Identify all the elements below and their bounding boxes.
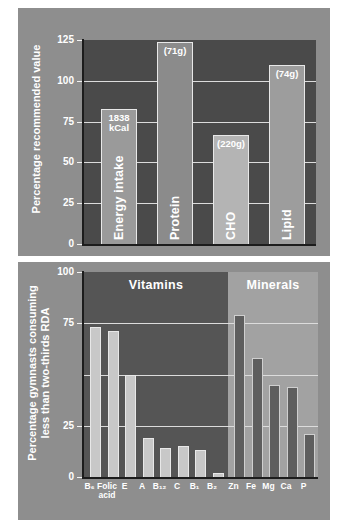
region-label-vitamins: Vitamins bbox=[84, 278, 228, 292]
bar-protein[interactable]: (71g) Protein bbox=[157, 42, 193, 244]
top-ticklabel-75: 75 bbox=[40, 117, 74, 127]
top-ticklabel-125: 125 bbox=[40, 35, 74, 45]
bar-category-energy-intake: Energy intake bbox=[112, 155, 126, 240]
bar-energy-intake[interactable]: 1838 kCal Energy intake bbox=[101, 109, 137, 244]
bar-a[interactable] bbox=[143, 438, 154, 477]
bar-c[interactable] bbox=[178, 446, 189, 477]
bottom-ticklabel-0: 0 bbox=[40, 472, 74, 482]
bar-label-energy-intake: 1838 kCal bbox=[102, 113, 136, 133]
bar-label-protein: (71g) bbox=[158, 46, 192, 56]
bottom-tick-0 bbox=[77, 477, 82, 478]
bottom-chart-panel: Percentage gymnasts consuming less than … bbox=[18, 262, 330, 520]
bottom-tick-75 bbox=[77, 323, 82, 324]
bottom-gridline-50 bbox=[84, 375, 318, 376]
figure-root: Percentage recommended value 1838 kCal E… bbox=[0, 0, 338, 530]
bar-category-protein: Protein bbox=[168, 196, 182, 240]
top-ticklabel-0: 0 bbox=[40, 239, 74, 249]
bar-b1[interactable] bbox=[195, 450, 206, 477]
bar-category-lipid: Lipid bbox=[280, 209, 294, 240]
top-tick-100 bbox=[77, 81, 82, 82]
top-tick-25 bbox=[77, 203, 82, 204]
bottom-gridline-75 bbox=[84, 323, 318, 324]
bar-p[interactable] bbox=[304, 434, 315, 477]
bottom-chart-y-axis-label: Percentage gymnasts consuming less than … bbox=[26, 268, 52, 478]
bar-e[interactable] bbox=[125, 375, 136, 478]
top-chart-x-axis bbox=[82, 244, 316, 246]
bar-b6[interactable] bbox=[90, 327, 101, 477]
bottom-chart-plot-area: Vitamins Minerals bbox=[84, 272, 318, 477]
bar-folic-acid[interactable] bbox=[108, 331, 119, 477]
bottom-ticklabel-100: 100 bbox=[40, 267, 74, 277]
bar-label-lipid: (74g) bbox=[270, 69, 304, 79]
xtick-b2: B₂ bbox=[201, 482, 224, 491]
bar-zn[interactable] bbox=[234, 315, 245, 477]
bottom-ticklabel-25: 25 bbox=[40, 421, 74, 431]
bottom-gridline-25 bbox=[84, 426, 318, 427]
top-chart-plot-area: 1838 kCal Energy intake (71g) Protein (2… bbox=[84, 40, 316, 244]
region-label-minerals: Minerals bbox=[228, 278, 318, 292]
top-ticklabel-100: 100 bbox=[40, 76, 74, 86]
top-chart-y-axis bbox=[82, 39, 84, 246]
bottom-chart-y-axis bbox=[82, 271, 84, 479]
bar-ca[interactable] bbox=[287, 387, 298, 477]
top-ticklabel-25: 25 bbox=[40, 198, 74, 208]
bar-category-cho: CHO bbox=[224, 212, 238, 240]
xtick-p: P bbox=[292, 482, 315, 491]
bar-lipid[interactable]: (74g) Lipid bbox=[269, 65, 305, 245]
top-ticklabel-50: 50 bbox=[40, 157, 74, 167]
bottom-tick-25 bbox=[77, 426, 82, 427]
bar-label-cho: (220g) bbox=[214, 139, 248, 149]
top-tick-75 bbox=[77, 122, 82, 123]
bar-cho[interactable]: (220g) CHO bbox=[213, 135, 249, 244]
top-tick-125 bbox=[77, 40, 82, 41]
bar-b12[interactable] bbox=[160, 448, 171, 477]
top-tick-0 bbox=[77, 244, 82, 245]
bottom-chart-x-axis bbox=[82, 477, 318, 479]
bottom-ticklabel-75: 75 bbox=[40, 318, 74, 328]
bar-fe[interactable] bbox=[252, 358, 263, 477]
top-tick-50 bbox=[77, 162, 82, 163]
bottom-tick-100 bbox=[77, 272, 82, 273]
top-chart-panel: Percentage recommended value 1838 kCal E… bbox=[18, 8, 330, 256]
bar-mg[interactable] bbox=[269, 385, 280, 477]
